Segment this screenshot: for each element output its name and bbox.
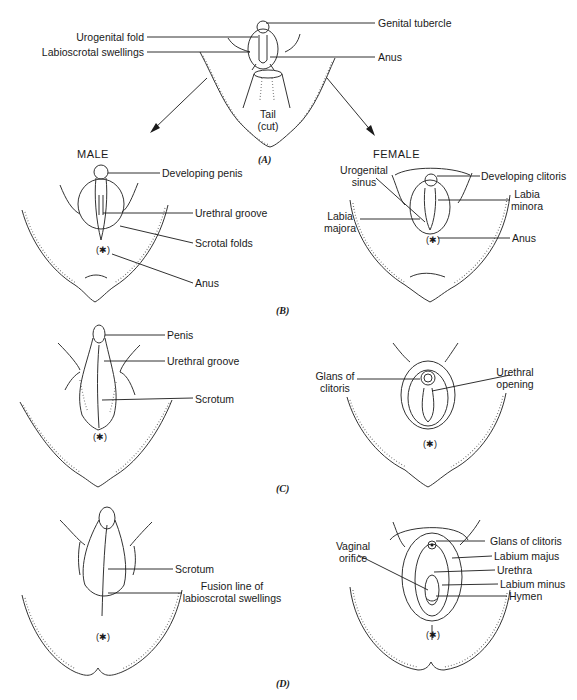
- label-vaginal-orifice-line1: Vaginal: [330, 540, 376, 552]
- label-fusion-line2: labioscrotal swellings: [176, 592, 288, 604]
- label-tail: Tail (cut): [253, 108, 283, 132]
- label-developing-clitoris: Developing clitoris: [481, 170, 566, 182]
- label-urogenital-sinus-line1: Urogenital: [334, 164, 394, 176]
- label-labium-minus: Labium minus: [500, 578, 565, 590]
- label-fusion-line1: Fusion line of: [176, 580, 288, 592]
- panel-label-c: (C): [276, 483, 289, 494]
- panel-label-a: (A): [258, 154, 271, 165]
- svg-text:(✱): (✱): [423, 439, 437, 449]
- label-anus-b-male: Anus: [195, 277, 219, 289]
- label-fusion-line: Fusion line of labioscrotal swellings: [176, 580, 288, 604]
- label-scrotal-folds: Scrotal folds: [195, 237, 253, 249]
- panel-d-male-drawing: (✱): [22, 507, 182, 675]
- svg-text:(✱): (✱): [96, 245, 110, 255]
- label-urethral-groove-b: Urethral groove: [195, 207, 267, 219]
- label-urethra: Urethra: [497, 564, 532, 576]
- panel-c-female-drawing: (✱): [347, 343, 510, 487]
- diagram-drawings: (✱) (✱) (✱): [0, 0, 577, 700]
- panel-c-male-drawing: (✱): [20, 325, 193, 487]
- label-scrotum-c: Scrotum: [195, 393, 234, 405]
- label-labia-majora-line2: majora: [320, 222, 360, 234]
- label-urethral-opening: Urethral opening: [491, 366, 539, 390]
- label-urogenital-sinus-line2: sinus: [334, 176, 394, 188]
- svg-text:(✱): (✱): [96, 632, 110, 642]
- label-hymen: Hymen: [509, 590, 542, 602]
- svg-text:(✱): (✱): [426, 630, 440, 640]
- label-glans-of-clitoris-d: Glans of clitoris: [490, 535, 562, 547]
- header-male: MALE: [77, 148, 109, 160]
- label-urethral-opening-line2: opening: [491, 378, 539, 390]
- label-labia-minora: Labia minora: [505, 188, 549, 212]
- genital-development-diagram: (✱) (✱) (✱): [0, 0, 577, 700]
- label-developing-penis: Developing penis: [162, 167, 243, 179]
- header-female: FEMALE: [373, 148, 420, 160]
- label-urethral-opening-line1: Urethral: [491, 366, 539, 378]
- label-labium-majus: Labium majus: [494, 550, 559, 562]
- label-urogenital-fold: Urogenital fold: [62, 31, 144, 43]
- panel-b-female-drawing: (✱): [350, 168, 510, 302]
- label-vaginal-orifice: Vaginal orifice: [330, 540, 376, 564]
- label-anus-a: Anus: [378, 51, 402, 63]
- panel-b-male-drawing: (✱): [22, 165, 193, 302]
- label-glans-line2: clitoris: [313, 382, 357, 394]
- label-glans-line1: Glans of: [313, 370, 357, 382]
- panel-label-d: (D): [276, 678, 290, 689]
- label-tail-line2: (cut): [253, 120, 283, 132]
- label-labia-minora-line2: minora: [505, 200, 549, 212]
- label-tail-line1: Tail: [253, 108, 283, 120]
- label-labia-majora-line1: Labia: [320, 210, 360, 222]
- label-anus-b-female: Anus: [512, 232, 536, 244]
- svg-text:(✱): (✱): [426, 235, 440, 245]
- label-urogenital-sinus: Urogenital sinus: [334, 164, 394, 188]
- label-scrotum-d: Scrotum: [175, 563, 214, 575]
- label-urethral-groove-c: Urethral groove: [167, 355, 239, 367]
- label-genital-tubercle: Genital tubercle: [378, 17, 452, 29]
- label-vaginal-orifice-line2: orifice: [330, 552, 376, 564]
- label-labia-majora: Labia majora: [320, 210, 360, 234]
- panel-label-b: (B): [276, 305, 289, 316]
- label-labioscrotal-swellings: Labioscrotal swellings: [30, 46, 144, 58]
- label-glans-of-clitoris-c: Glans of clitoris: [313, 370, 357, 394]
- svg-text:(✱): (✱): [93, 432, 107, 442]
- label-labia-minora-line1: Labia: [505, 188, 549, 200]
- label-penis: Penis: [167, 329, 193, 341]
